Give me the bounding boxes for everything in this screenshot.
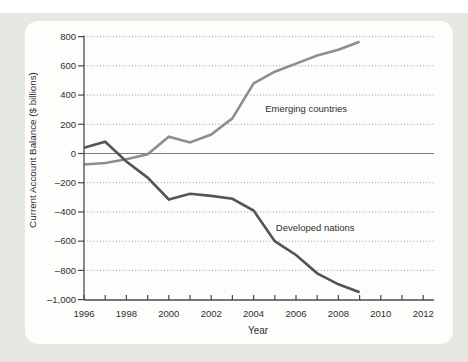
x-tick-label-1998: 1998 bbox=[116, 308, 137, 319]
y-tick-label--400: –400 bbox=[55, 206, 76, 217]
current-account-balance-chart: 8006004002000–200–400–600–800–1,00019961… bbox=[0, 0, 468, 362]
x-tick-label-2004: 2004 bbox=[243, 308, 264, 319]
x-tick-label-1996: 1996 bbox=[73, 308, 94, 319]
y-axis-title: Current Account Balance ($ billions) bbox=[27, 72, 38, 228]
x-tick-label-2010: 2010 bbox=[370, 308, 391, 319]
annotation-developed-nations: Developed nations bbox=[276, 222, 355, 233]
y-tick-label--800: –800 bbox=[55, 265, 76, 276]
x-tick-label-2006: 2006 bbox=[285, 308, 306, 319]
y-tick-label--600: –600 bbox=[55, 235, 76, 246]
y-tick-label--1000: –1,000 bbox=[47, 294, 76, 305]
y-tick-label-400: 400 bbox=[60, 89, 76, 100]
series-line-developed-nations bbox=[84, 142, 360, 292]
y-tick-label-0: 0 bbox=[71, 148, 76, 159]
y-tick-label-200: 200 bbox=[60, 119, 76, 130]
y-tick-label-600: 600 bbox=[60, 60, 76, 71]
x-tick-label-2008: 2008 bbox=[328, 308, 349, 319]
x-tick-label-2012: 2012 bbox=[413, 308, 434, 319]
y-tick-label--200: –200 bbox=[55, 177, 76, 188]
annotation-emerging-countries: Emerging countries bbox=[265, 103, 347, 114]
x-axis-title: Year bbox=[248, 325, 269, 336]
x-tick-label-2002: 2002 bbox=[201, 308, 222, 319]
y-tick-label-800: 800 bbox=[60, 31, 76, 42]
x-tick-label-2000: 2000 bbox=[158, 308, 179, 319]
